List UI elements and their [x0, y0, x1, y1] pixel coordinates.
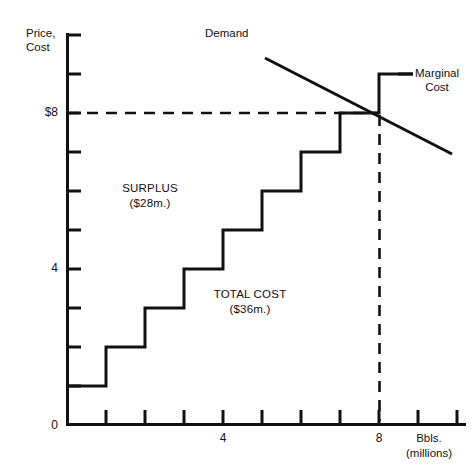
- y-tick-label-8: $8: [8, 105, 58, 119]
- y-axis-ticks: [67, 35, 81, 386]
- origin-label: 0: [8, 418, 58, 432]
- marginal-cost-label-line2: Cost: [401, 80, 472, 94]
- demand-label: Demand: [205, 26, 248, 40]
- x-axis-title-line2: (millions): [388, 446, 470, 460]
- marginal-cost-label-line1: Marginal: [401, 66, 472, 80]
- y-axis-title-line1: Price,: [26, 26, 55, 40]
- total-cost-amount-label: ($36m.): [187, 302, 313, 316]
- x-tick-label-4: 4: [203, 431, 243, 445]
- total-cost-label: TOTAL COST: [187, 287, 313, 301]
- economics-step-cost-chart: Price, Cost $8 4 0 4 8 Bbls. (millions) …: [0, 0, 472, 469]
- x-axis-title-line1: Bbls.: [396, 431, 462, 445]
- marginal-cost-step-curve: [67, 74, 413, 386]
- y-axis-title-line2: Cost: [26, 40, 50, 54]
- surplus-amount-label: ($28m.): [90, 196, 210, 210]
- surplus-label: SURPLUS: [90, 181, 210, 195]
- x-tick-label-8: 8: [359, 431, 399, 445]
- y-tick-label-4: 4: [8, 261, 58, 275]
- x-axis-ticks: [106, 410, 457, 424]
